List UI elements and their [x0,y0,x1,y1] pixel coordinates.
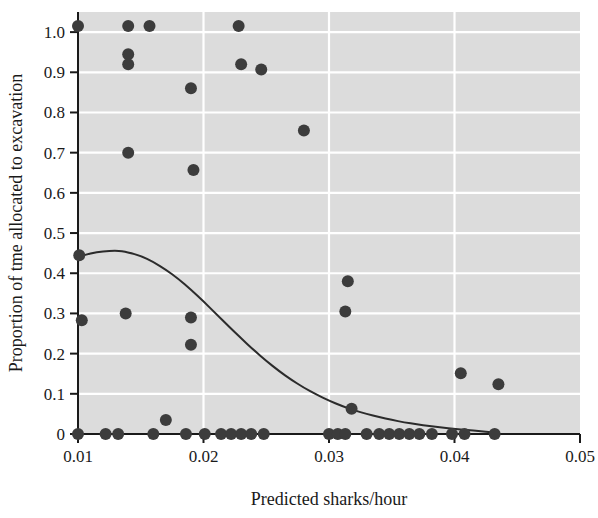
data-point [426,428,438,440]
y-tick-label: 0.7 [44,144,66,163]
x-tick-label: 0.05 [565,447,595,466]
data-point [122,147,134,159]
y-tick-label: 0 [57,425,66,444]
data-point [122,20,134,32]
data-point [76,314,88,326]
y-axis-ticks [70,32,78,434]
data-point [492,378,504,390]
data-point [72,428,84,440]
y-tick-label: 0.9 [44,63,65,82]
x-axis-tick-labels: 0.010.020.030.040.05 [63,447,595,466]
data-point [233,20,245,32]
data-point [255,63,267,75]
data-point [459,428,471,440]
y-tick-label: 1.0 [44,23,65,42]
x-axis-title: Predicted sharks/hour [251,489,407,509]
data-point [144,20,156,32]
data-point [120,307,132,319]
y-axis-tick-labels: 00.10.20.30.40.50.60.70.80.91.0 [44,23,66,444]
data-point [160,414,172,426]
data-point [180,428,192,440]
chart-figure: 00.10.20.30.40.50.60.70.80.91.0 0.010.02… [0,0,598,518]
y-tick-label: 0.1 [44,385,65,404]
y-tick-label: 0.4 [44,264,66,283]
data-point [199,428,211,440]
data-point [147,428,159,440]
y-tick-label: 0.8 [44,103,65,122]
scatter-plot-svg: 00.10.20.30.40.50.60.70.80.91.0 0.010.02… [0,0,598,518]
data-point [339,428,351,440]
data-point [342,275,354,287]
data-point [446,428,458,440]
data-point [245,428,257,440]
data-point [346,403,358,415]
data-point [339,305,351,317]
y-tick-label: 0.6 [44,184,65,203]
data-point [185,82,197,94]
data-point [489,428,501,440]
x-tick-label: 0.03 [314,447,344,466]
x-tick-label: 0.01 [63,447,93,466]
data-point [258,428,270,440]
data-point [122,58,134,70]
data-point [112,428,124,440]
data-point [187,164,199,176]
data-point [185,311,197,323]
data-point [361,428,373,440]
data-point [455,367,467,379]
data-point [235,58,247,70]
data-point [72,20,84,32]
data-point [100,428,112,440]
y-tick-label: 0.5 [44,224,65,243]
x-tick-label: 0.04 [440,447,470,466]
x-tick-label: 0.02 [189,447,219,466]
data-point [413,428,425,440]
data-point [298,125,310,137]
y-axis-title: Proportion of tme allocated to excavatio… [6,74,26,372]
y-tick-label: 0.2 [44,345,65,364]
data-point [73,249,85,261]
y-tick-label: 0.3 [44,304,65,323]
data-point [185,339,197,351]
